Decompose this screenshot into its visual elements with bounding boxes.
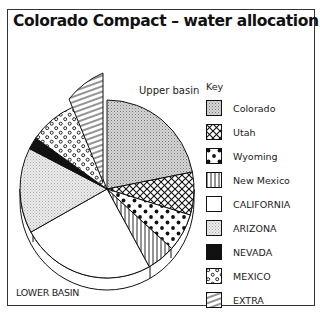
legend-item-extra: EXTRA — [206, 288, 290, 312]
legend-item-nevada: NEVADA — [206, 240, 290, 264]
legend-item-colorado: Colorado — [206, 96, 290, 120]
upper-basin-label: Upper basin — [139, 85, 199, 96]
legend-item-mexico: MEXICO — [206, 264, 290, 288]
swatch-arizona — [206, 220, 222, 236]
swatch-wyoming — [206, 148, 222, 164]
swatch-utah — [206, 124, 222, 140]
legend-item-utah: Utah — [206, 120, 290, 144]
swatch-nevada — [206, 244, 222, 260]
lower-basin-label: LOWER BASIN — [16, 287, 79, 298]
legend-title: Key — [206, 81, 223, 92]
swatch-california — [206, 196, 222, 212]
swatch-new-mexico — [206, 172, 222, 188]
legend-item-new-mexico: New Mexico — [206, 168, 290, 192]
swatch-colorado — [206, 100, 222, 116]
legend-item-california: CALIFORNIA — [206, 192, 290, 216]
swatch-mexico — [206, 268, 222, 284]
swatch-extra — [206, 292, 222, 308]
legend: Colorado Utah Wyoming New Mexico CALIFOR… — [206, 96, 290, 312]
legend-item-wyoming: Wyoming — [206, 144, 290, 168]
legend-item-arizona: ARIZONA — [206, 216, 290, 240]
